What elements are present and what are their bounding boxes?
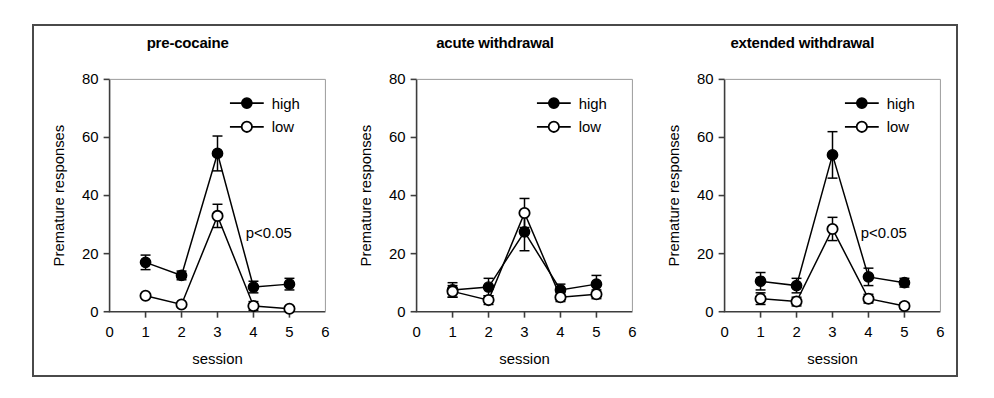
legend-item-low: low (537, 119, 601, 135)
x-tick-label: 4 (557, 324, 565, 340)
data-point-low (899, 301, 909, 311)
data-point-high (592, 279, 602, 289)
panel-row: pre-cocaine 0204060800123456sessionPrema… (34, 26, 956, 375)
data-point-low (248, 301, 258, 311)
y-axis-title: Premature responses (51, 125, 67, 267)
data-point-low (212, 211, 222, 221)
data-point-low (863, 294, 873, 304)
y-tick-label: 0 (90, 304, 98, 320)
data-point-high (484, 282, 494, 292)
legend-label: high (886, 96, 914, 112)
data-point-low (176, 299, 186, 309)
data-point-high (140, 257, 150, 267)
y-tick-label: 20 (82, 246, 99, 262)
data-point-high (899, 278, 909, 288)
data-point-high (827, 150, 837, 160)
legend-item-low: low (230, 119, 294, 135)
legend-item-high: high (845, 96, 915, 112)
x-tick-label: 5 (285, 324, 293, 340)
plot-acute-withdrawal: 0204060800123456sessionPremature respons… (341, 26, 648, 375)
x-axis-title: session (500, 351, 551, 367)
x-tick-label: 6 (629, 324, 637, 340)
y-tick-label: 40 (82, 188, 99, 204)
data-point-high (248, 282, 258, 292)
x-axis-title: session (807, 351, 858, 367)
plot-pre-cocaine: 0204060800123456sessionPremature respons… (34, 26, 341, 375)
x-tick-label: 3 (828, 324, 836, 340)
data-point-high (176, 270, 186, 280)
x-tick-label: 1 (141, 324, 149, 340)
x-tick-label: 1 (449, 324, 457, 340)
x-tick-label: 4 (249, 324, 257, 340)
y-tick-label: 0 (705, 304, 713, 320)
data-point-high (520, 227, 530, 237)
x-tick-label: 0 (413, 324, 421, 340)
legend-marker (856, 98, 866, 108)
x-tick-label: 5 (593, 324, 601, 340)
axis-spines (417, 79, 633, 311)
x-tick-label: 0 (720, 324, 728, 340)
y-tick-label: 60 (389, 129, 406, 145)
y-tick-label: 80 (697, 71, 714, 87)
figure-frame: pre-cocaine 0204060800123456sessionPrema… (32, 24, 958, 377)
legend-label: high (272, 96, 300, 112)
y-tick-label: 20 (389, 246, 406, 262)
legend-label: low (272, 119, 295, 135)
y-tick-label: 40 (697, 188, 714, 204)
panel-pre-cocaine: pre-cocaine 0204060800123456sessionPrema… (34, 26, 341, 375)
x-axis-title: session (192, 351, 243, 367)
data-point-low (791, 296, 801, 306)
data-point-low (520, 208, 530, 218)
panel-extended-withdrawal: extended withdrawal 0204060800123456sess… (649, 26, 956, 375)
data-point-low (755, 294, 765, 304)
x-tick-label: 5 (900, 324, 908, 340)
y-tick-label: 80 (82, 71, 99, 87)
x-tick-label: 3 (213, 324, 221, 340)
legend-label: high (579, 96, 607, 112)
x-tick-label: 6 (936, 324, 944, 340)
data-point-low (448, 286, 458, 296)
legend-label: low (886, 119, 909, 135)
plot-extended-withdrawal: 0204060800123456sessionPremature respons… (649, 26, 956, 375)
data-point-low (140, 291, 150, 301)
data-point-low (284, 304, 294, 314)
x-tick-label: 2 (792, 324, 800, 340)
x-tick-label: 3 (521, 324, 529, 340)
data-point-low (484, 295, 494, 305)
legend-item-high: high (230, 96, 300, 112)
legend-marker (549, 122, 559, 132)
x-tick-label: 2 (177, 324, 185, 340)
y-axis-title: Premature responses (358, 125, 374, 267)
y-tick-label: 60 (82, 129, 99, 145)
y-tick-label: 40 (389, 188, 406, 204)
pvalue-annotation: p<0.05 (246, 225, 292, 241)
y-tick-label: 0 (398, 304, 406, 320)
x-tick-label: 0 (105, 324, 113, 340)
legend-item-high: high (537, 96, 607, 112)
x-tick-label: 2 (485, 324, 493, 340)
legend-item-low: low (845, 119, 909, 135)
data-point-high (863, 272, 873, 282)
x-tick-label: 1 (756, 324, 764, 340)
y-tick-label: 60 (697, 129, 714, 145)
y-axis-title: Premature responses (665, 125, 681, 267)
pvalue-annotation: p<0.05 (861, 225, 907, 241)
data-point-low (827, 224, 837, 234)
panel-acute-withdrawal: acute withdrawal 0204060800123456session… (341, 26, 648, 375)
x-tick-label: 4 (864, 324, 872, 340)
y-tick-label: 20 (697, 246, 714, 262)
data-point-high (791, 280, 801, 290)
data-point-high (212, 148, 222, 158)
data-point-low (592, 289, 602, 299)
data-point-high (755, 276, 765, 286)
legend-marker (242, 98, 252, 108)
legend-marker (549, 98, 559, 108)
data-point-high (284, 279, 294, 289)
axis-spines (110, 79, 326, 311)
x-tick-label: 6 (321, 324, 329, 340)
y-tick-label: 80 (389, 71, 406, 87)
legend-marker (242, 122, 252, 132)
legend-marker (856, 122, 866, 132)
data-point-low (556, 292, 566, 302)
legend-label: low (579, 119, 602, 135)
